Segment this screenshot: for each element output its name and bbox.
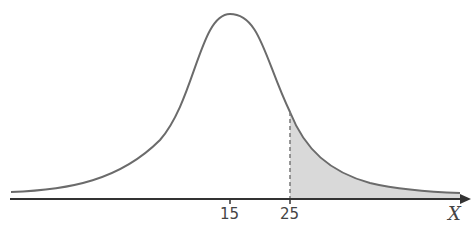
x-axis-label: X [448,203,461,224]
shaded-tail-region [290,112,460,199]
tick-label-cutoff: 25 [280,205,299,223]
bell-curve [11,14,460,193]
tick-label-mean: 15 [220,205,239,223]
x-axis-arrow-icon [460,194,471,204]
normal-curve-diagram [0,0,472,230]
